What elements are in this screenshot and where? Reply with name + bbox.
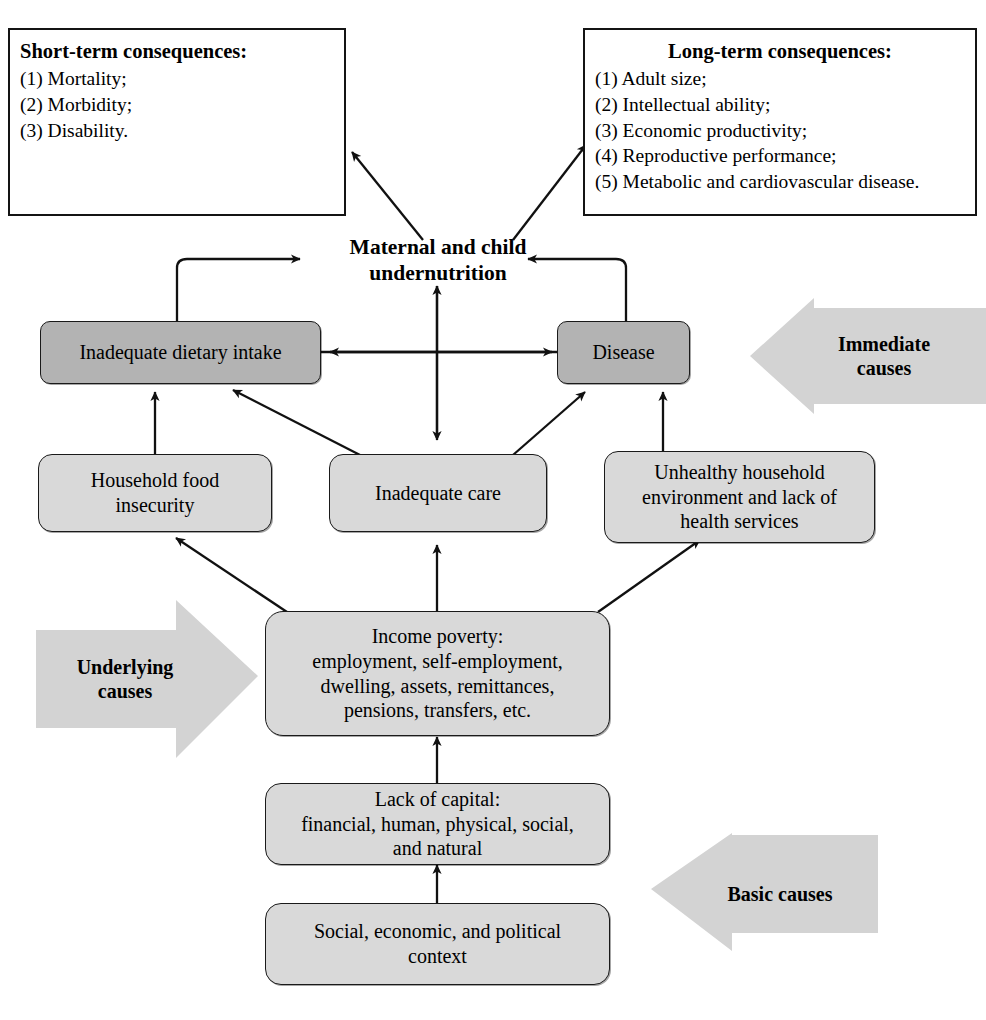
arrow-inadequate-care-to-dietary-intake [233, 390, 360, 455]
center-title-line-1: Maternal and child [350, 235, 527, 259]
band-arrow-basic-causes: Basic causes [648, 833, 878, 955]
node-context-line-2: context [408, 945, 467, 967]
long-term-item-5: (5) Metabolic and cardiovascular disease… [595, 169, 965, 195]
arrow-inadequate-care-to-disease [513, 392, 585, 455]
band-basic-label: Basic causes [728, 883, 833, 905]
node-income-poverty-line-4: pensions, transfers, etc. [344, 699, 531, 721]
node-income-poverty[interactable]: Income poverty: employment, self-employm… [265, 611, 610, 736]
node-unhealthy-household-environment[interactable]: Unhealthy household environment and lack… [604, 451, 875, 543]
node-disease-label: Disease [584, 340, 662, 365]
long-term-consequences-heading: Long-term consequences: [595, 38, 965, 65]
node-disease[interactable]: Disease [557, 321, 690, 384]
node-household-food-insecurity-line-2: insecurity [116, 494, 195, 516]
band-immediate-line-2: causes [857, 357, 911, 379]
node-inadequate-care-label: Inadequate care [367, 481, 509, 506]
node-household-food-insecurity[interactable]: Household food insecurity [38, 454, 272, 532]
node-inadequate-dietary-intake-label: Inadequate dietary intake [71, 340, 289, 365]
band-underlying-line-1: Underlying [77, 656, 174, 678]
short-term-item-2: (2) Morbidity; [20, 92, 334, 118]
arrow-dietary-intake-to-undernutrition [177, 259, 300, 322]
band-immediate-line-1: Immediate [838, 333, 930, 355]
node-income-poverty-line-2: employment, self-employment, [312, 650, 563, 672]
node-inadequate-dietary-intake[interactable]: Inadequate dietary intake [40, 321, 321, 384]
node-lack-of-capital-line-1: Lack of capital: [375, 788, 501, 810]
short-term-consequences-box: Short-term consequences: (1) Mortality; … [8, 28, 346, 216]
long-term-consequences-box: Long-term consequences: (1) Adult size; … [583, 28, 977, 216]
node-context-line-1: Social, economic, and political [314, 920, 561, 942]
node-inadequate-care[interactable]: Inadequate care [329, 454, 547, 532]
arrow-income-poverty-to-unhealthy-environment [598, 540, 700, 612]
node-unhealthy-household-environment-line-2: environment and lack of [642, 486, 837, 508]
node-lack-of-capital-line-2: financial, human, physical, social, [301, 813, 574, 835]
band-arrow-underlying-causes: Underlying causes [36, 600, 258, 758]
diagram-canvas: Short-term consequences: (1) Mortality; … [0, 0, 986, 1020]
node-lack-of-capital[interactable]: Lack of capital: financial, human, physi… [265, 783, 610, 865]
band-underlying-line-2: causes [98, 680, 152, 702]
short-term-consequences-heading: Short-term consequences: [20, 38, 334, 65]
node-household-food-insecurity-line-1: Household food [91, 469, 219, 491]
band-arrow-immediate-causes: Immediate causes [748, 298, 986, 414]
node-income-poverty-line-3: dwelling, assets, remittances, [321, 675, 555, 697]
arrow-undernutrition-to-long-term [513, 145, 586, 240]
center-title-maternal-child-undernutrition: Maternal and child undernutrition [322, 234, 554, 286]
node-lack-of-capital-line-3: and natural [393, 837, 482, 859]
node-unhealthy-household-environment-line-1: Unhealthy household [654, 461, 825, 483]
node-social-economic-political-context[interactable]: Social, economic, and political context [265, 903, 610, 985]
long-term-item-3: (3) Economic productivity; [595, 118, 965, 144]
long-term-item-2: (2) Intellectual ability; [595, 92, 965, 118]
short-term-item-1: (1) Mortality; [20, 66, 334, 92]
node-income-poverty-line-1: Income poverty: [372, 625, 504, 647]
short-term-item-3: (3) Disability. [20, 118, 334, 144]
arrow-undernutrition-to-short-term [352, 152, 423, 240]
long-term-item-4: (4) Reproductive performance; [595, 143, 965, 169]
long-term-item-1: (1) Adult size; [595, 66, 965, 92]
node-unhealthy-household-environment-line-3: health services [680, 510, 798, 532]
center-title-line-2: undernutrition [369, 261, 506, 285]
